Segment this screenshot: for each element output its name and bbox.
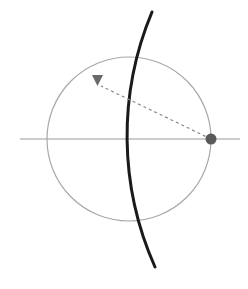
geometry-diagram	[0, 0, 248, 289]
source-dot	[206, 134, 217, 145]
figure-container	[0, 0, 248, 289]
